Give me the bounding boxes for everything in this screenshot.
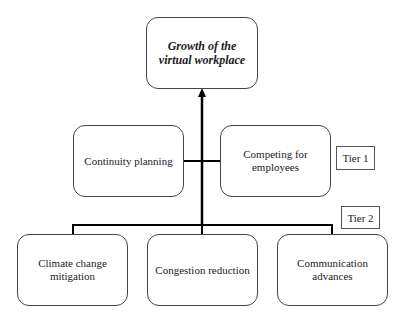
root-node-label: Growth of the virtual workplace [153,39,251,67]
tier1-node-competing: Competing for employees [220,125,331,197]
tier2-node-congestion: Congestion reduction [147,234,258,306]
node-label: Climate change mitigation [32,257,113,283]
tier2-node-communication: Communication advances [277,234,388,306]
tier1-node-continuity: Continuity planning [73,125,184,197]
node-label: Competing for employees [239,148,312,174]
tier1-tag: Tier 1 [336,146,375,170]
node-label: Congestion reduction [155,264,249,277]
tier1-tag-label: Tier 1 [342,152,368,164]
tier2-tag-label: Tier 2 [347,212,373,224]
tier2-tag: Tier 2 [341,206,380,229]
root-node: Growth of the virtual workplace [146,17,258,89]
node-label: Continuity planning [84,155,172,168]
arrow-head-icon [198,88,206,97]
tier2-node-climate: Climate change mitigation [17,234,128,306]
node-label: Communication advances [292,257,373,283]
